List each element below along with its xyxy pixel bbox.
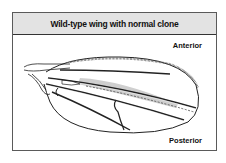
vein-l5 xyxy=(52,92,130,130)
wing-diagram xyxy=(0,0,226,163)
cross-vein-posterior xyxy=(114,100,124,130)
